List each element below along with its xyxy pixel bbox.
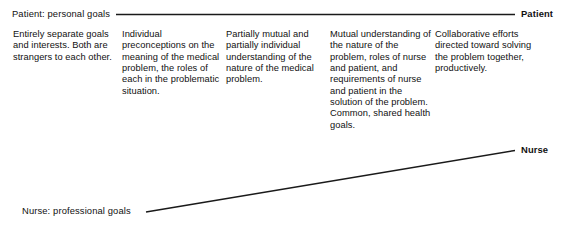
nurse-goal-line xyxy=(146,151,515,213)
stage-column: Individual preconceptions on the meaning… xyxy=(122,29,222,97)
stage-text: Partially mutual and partially individua… xyxy=(226,29,326,86)
nurse-axis-start-label: Nurse: professional goals xyxy=(22,205,131,216)
stage-text: Collaborative efforts directed toward so… xyxy=(435,29,543,74)
stage-text: Mutual understanding of the nature of th… xyxy=(330,29,432,131)
stage-column: Entirely separate goals and interests. B… xyxy=(13,29,117,63)
convergence-diagram: Patient: personal goals Patient Nurse: p… xyxy=(0,0,572,232)
stage-text: Individual preconceptions on the meaning… xyxy=(122,29,222,97)
stage-text: Entirely separate goals and interests. B… xyxy=(13,29,117,63)
stage-column: Collaborative efforts directed toward so… xyxy=(435,29,543,74)
patient-axis-start-label: Patient: personal goals xyxy=(12,8,110,19)
patient-axis-end-label: Patient xyxy=(521,8,553,19)
nurse-axis-end-label: Nurse xyxy=(521,144,548,155)
stage-column: Mutual understanding of the nature of th… xyxy=(330,29,432,131)
stage-column: Partially mutual and partially individua… xyxy=(226,29,326,86)
